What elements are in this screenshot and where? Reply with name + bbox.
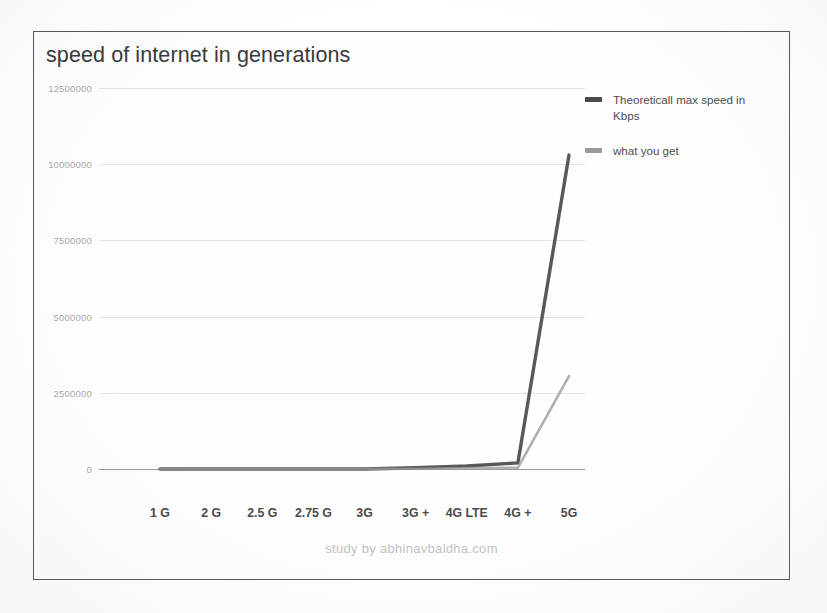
x-axis-tick-label: 2 G — [201, 506, 221, 520]
chart-title: speed of internet in generations — [46, 43, 350, 68]
x-axis-tick-label: 5G — [561, 506, 577, 520]
y-axis-tick-label: 12500000 — [48, 83, 92, 94]
x-axis-labels: 1 G2 G2.5 G2.75 G3G3G +4G LTE4G +5G — [99, 506, 585, 526]
y-axis-tick-label: 10000000 — [48, 159, 92, 170]
y-axis-tick-label: 5000000 — [54, 311, 92, 322]
series-line — [160, 155, 569, 469]
legend-item-label: what you get — [613, 143, 679, 159]
x-axis-tick-label: 4G + — [504, 506, 531, 520]
x-axis-tick-label: 1 G — [150, 506, 170, 520]
series-line — [160, 376, 569, 469]
plot-area: 02500000500000075000001000000012500000 — [99, 88, 585, 469]
y-axis-tick-label: 2500000 — [54, 387, 92, 398]
y-axis-tick-label: 0 — [87, 464, 92, 475]
x-axis-tick-label: 4G LTE — [446, 506, 488, 520]
series-lines — [99, 88, 585, 469]
y-axis-tick-label: 7500000 — [54, 235, 92, 246]
chart-legend: Theoreticall max speed in Kbpswhat you g… — [585, 92, 781, 179]
x-axis-tick-label: 2.75 G — [295, 506, 332, 520]
footer-credit: study by abhinavbaldha.com — [34, 541, 789, 556]
x-axis-tick-label: 3G + — [402, 506, 429, 520]
legend-swatch-icon — [585, 148, 602, 153]
legend-item-label: Theoreticall max speed in Kbps — [613, 92, 763, 123]
x-axis-tick-label: 2.5 G — [247, 506, 277, 520]
legend-item[interactable]: Theoreticall max speed in Kbps — [585, 92, 781, 123]
x-axis-tick-label: 3G — [356, 506, 372, 520]
legend-swatch-icon — [585, 97, 602, 102]
legend-item[interactable]: what you get — [585, 143, 781, 159]
chart-frame: speed of internet in generations 0250000… — [33, 31, 790, 580]
